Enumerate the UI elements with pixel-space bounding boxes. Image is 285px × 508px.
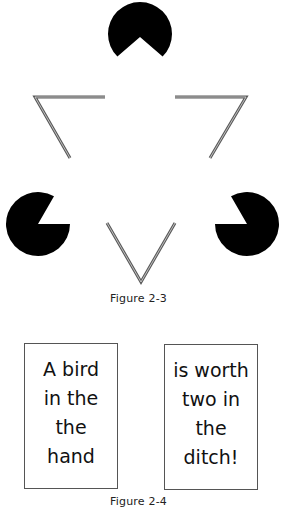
pacman-disc-right [215, 192, 279, 256]
card-text-line: is worth [173, 356, 249, 385]
card-text-line: the [195, 414, 226, 443]
proverb-card-left: A bird in the the hand [24, 343, 118, 489]
chevron-top-left [35, 97, 105, 158]
card-text-line: the [55, 413, 86, 442]
card-text-line: in the [44, 384, 99, 413]
kanizsa-triangle-figure [0, 0, 285, 290]
figure-caption-2-4: Figure 2-4 [0, 495, 281, 508]
card-text-line: ditch! [184, 443, 239, 472]
chevron-bottom [107, 223, 175, 282]
card-text-line: two in [182, 385, 240, 414]
proverb-card-right: is worth two in the ditch! [164, 344, 258, 490]
card-text-line: hand [47, 442, 95, 471]
figure-caption-2-3: Figure 2-3 [0, 292, 281, 305]
pacman-disc-left [6, 192, 70, 256]
pacman-disc-top [108, 2, 172, 57]
chevron-top-right [175, 97, 246, 158]
card-text-line: A bird [43, 355, 99, 384]
